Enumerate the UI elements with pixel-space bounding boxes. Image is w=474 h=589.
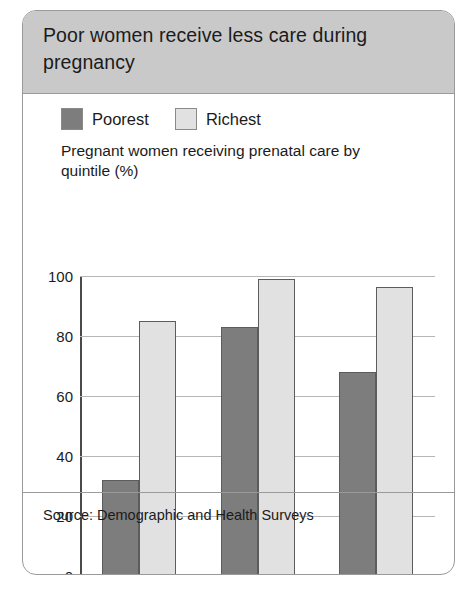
chart-card: Poor women receive less care during preg… [22, 10, 455, 575]
y-axis-tick-label: 80 [33, 328, 73, 345]
y-axis-tick-label: 100 [33, 268, 73, 285]
y-axis-tick-label: 60 [33, 388, 73, 405]
card-footer: Source: Demographic and Health Surveys [23, 492, 455, 574]
source-note: Source: Demographic and Health Surveys [43, 507, 436, 523]
page-title: Poor women receive less care during preg… [43, 22, 434, 76]
y-axis-tick-label: 40 [33, 448, 73, 465]
card-header: Poor women receive less care during preg… [23, 11, 454, 94]
gridline [80, 276, 435, 277]
